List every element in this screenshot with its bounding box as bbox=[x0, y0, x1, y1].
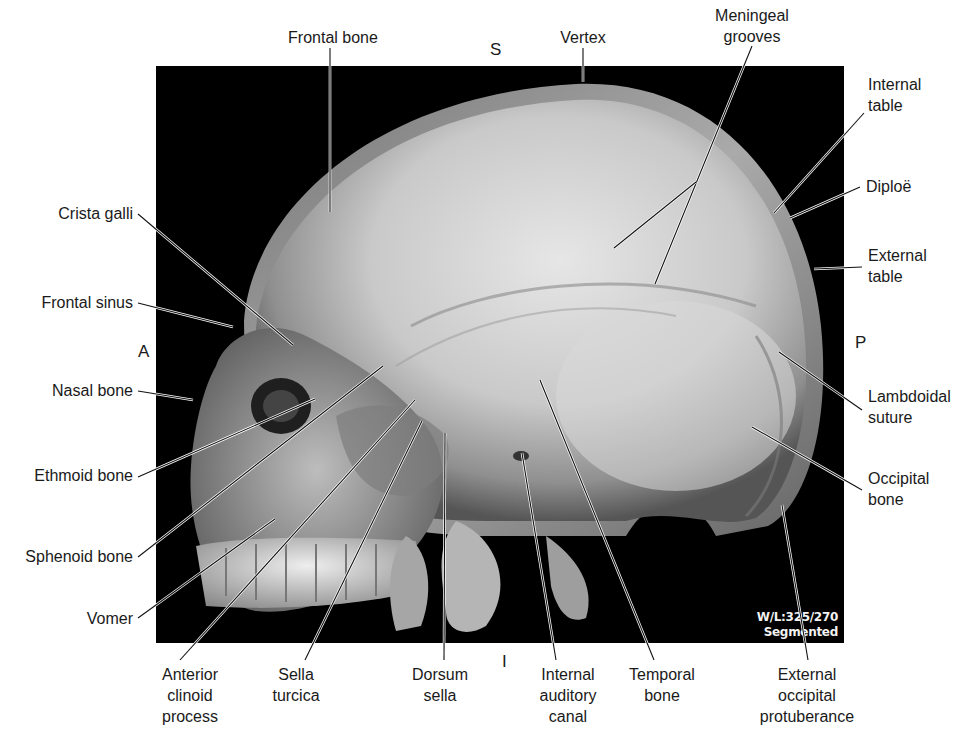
render-mode-text: Segmented bbox=[757, 625, 838, 640]
label-meningeal-grooves: Meningeal grooves bbox=[715, 5, 789, 47]
orientation-inferior: I bbox=[502, 652, 507, 672]
skull-ct-figure: W/L:325/270 Segmented S I A P Frontal bo… bbox=[0, 0, 975, 740]
label-internal-table: Internal table bbox=[868, 74, 921, 116]
label-vertex: Vertex bbox=[560, 27, 605, 48]
orientation-posterior: P bbox=[855, 333, 866, 353]
label-dorsum-sella: Dorsum sella bbox=[412, 664, 468, 706]
label-occipital-bone: Occipital bone bbox=[868, 468, 929, 510]
window-level-text: W/L:325/270 bbox=[757, 610, 838, 625]
label-external-table: External table bbox=[868, 245, 927, 287]
label-temporal-bone: Temporal bone bbox=[629, 664, 695, 706]
label-external-occipital-protuberance: External occipital protuberance bbox=[760, 664, 854, 727]
label-crista-galli: Crista galli bbox=[58, 203, 133, 224]
label-ethmoid-bone: Ethmoid bone bbox=[34, 465, 133, 486]
skull-render-image bbox=[156, 66, 844, 643]
label-frontal-sinus: Frontal sinus bbox=[41, 292, 133, 313]
label-anterior-clinoid-process: Anterior clinoid process bbox=[162, 664, 218, 727]
label-lambdoidal-suture: Lambdoidal suture bbox=[868, 386, 951, 428]
label-nasal-bone: Nasal bone bbox=[52, 380, 133, 401]
orientation-superior: S bbox=[490, 40, 501, 60]
label-sella-turcica: Sella turcica bbox=[272, 664, 319, 706]
orientation-anterior: A bbox=[138, 342, 149, 362]
label-diploe: Diploë bbox=[866, 176, 911, 197]
label-frontal-bone: Frontal bone bbox=[288, 27, 378, 48]
ct-volume-render: W/L:325/270 Segmented bbox=[156, 66, 844, 643]
label-sphenoid-bone: Sphenoid bone bbox=[25, 546, 133, 567]
scan-parameters-overlay: W/L:325/270 Segmented bbox=[757, 610, 838, 640]
label-vomer: Vomer bbox=[87, 608, 133, 629]
label-internal-auditory-canal: Internal auditory canal bbox=[540, 664, 597, 727]
